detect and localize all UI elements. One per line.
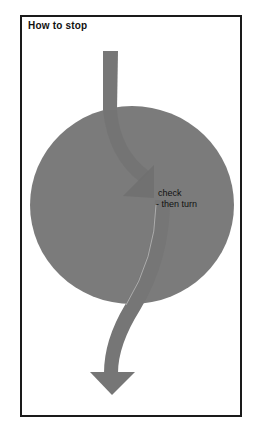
- annotation-then-turn: - then turn: [156, 199, 197, 210]
- arrowhead-down-icon: [90, 372, 135, 395]
- incoming-arrow-shaft-icon: [103, 51, 118, 110]
- annotation-check: check: [158, 188, 182, 199]
- roundabout-circle-icon: [30, 106, 234, 304]
- stop-diagram: [0, 0, 258, 427]
